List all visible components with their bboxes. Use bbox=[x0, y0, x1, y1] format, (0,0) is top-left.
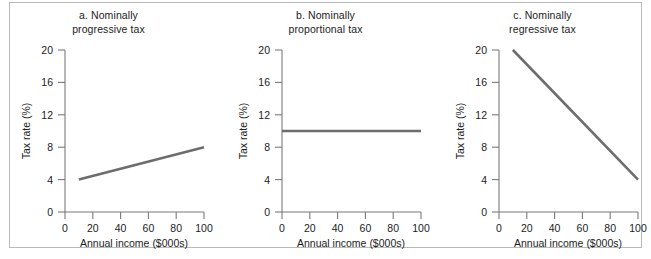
panel-b-xlabel-100: 100 bbox=[412, 222, 430, 234]
panel-a-xlabel-40: 40 bbox=[115, 222, 127, 234]
panel-b-ylabel-12: 12 bbox=[258, 109, 270, 121]
panel-b-xlabel-60: 60 bbox=[360, 222, 372, 234]
panel-c-y-axis-label: Tax rate (%) bbox=[454, 103, 466, 160]
panel-a-xlabel-20: 20 bbox=[87, 222, 99, 234]
chart-panel-b: b. Nominally proportional tax 0 4 8 12 1… bbox=[217, 0, 434, 259]
panel-c-x-axis-label: Annual income ($000s) bbox=[514, 237, 622, 249]
panel-c-xlabel-20: 20 bbox=[521, 222, 533, 234]
panel-b-xlabel-40: 40 bbox=[332, 222, 344, 234]
panel-a-ylabel-4: 4 bbox=[47, 174, 53, 186]
panel-c-ylabel-12: 12 bbox=[475, 109, 487, 121]
chart-panel-a: a. Nominally progressive tax 0 4 8 12 16… bbox=[0, 0, 217, 259]
panel-a-xlabel-60: 60 bbox=[143, 222, 155, 234]
panel-container: a. Nominally progressive tax 0 4 8 12 16… bbox=[0, 0, 651, 259]
panel-b-ylabel-20: 20 bbox=[258, 44, 270, 56]
panel-a-ylabel-8: 8 bbox=[47, 141, 53, 153]
panel-c-xlabel-40: 40 bbox=[549, 222, 561, 234]
panel-b-xlabel-0: 0 bbox=[279, 222, 285, 234]
panel-c-data-line bbox=[513, 50, 638, 180]
panel-a-ylabel-16: 16 bbox=[41, 76, 53, 88]
panel-b-y-axis-label: Tax rate (%) bbox=[237, 103, 249, 160]
panel-a-ylabel-12: 12 bbox=[41, 109, 53, 121]
panel-a-data-line bbox=[79, 147, 204, 179]
panel-b-ylabel-16: 16 bbox=[258, 76, 270, 88]
panel-c-ylabel-20: 20 bbox=[475, 44, 487, 56]
panel-c-ylabel-4: 4 bbox=[481, 174, 487, 186]
panel-a-xlabel-80: 80 bbox=[170, 222, 182, 234]
panel-c-ylabel-8: 8 bbox=[481, 141, 487, 153]
chart-panel-c: c. Nominally regressive tax 0 4 8 12 16 … bbox=[434, 0, 651, 259]
panel-c-ylabel-0: 0 bbox=[481, 206, 487, 218]
panel-b-ylabel-8: 8 bbox=[264, 141, 270, 153]
panel-b-ylabel-4: 4 bbox=[264, 174, 270, 186]
panel-a-ylabel-20: 20 bbox=[41, 44, 53, 56]
panel-c-xlabel-80: 80 bbox=[604, 222, 616, 234]
panel-a-plot: 0 4 8 12 16 20 0 20 40 60 80 100 Annual … bbox=[0, 0, 217, 259]
panel-b-ylabel-0: 0 bbox=[264, 206, 270, 218]
panel-c-ylabel-16: 16 bbox=[475, 76, 487, 88]
panel-a-ylabel-0: 0 bbox=[47, 206, 53, 218]
panel-a-x-axis-label: Annual income ($000s) bbox=[80, 237, 188, 249]
panel-c-xlabel-100: 100 bbox=[629, 222, 647, 234]
panel-b-xlabel-80: 80 bbox=[387, 222, 399, 234]
panel-c-plot: 0 4 8 12 16 20 0 20 40 60 80 100 Annual … bbox=[434, 0, 651, 259]
panel-a-xlabel-0: 0 bbox=[62, 222, 68, 234]
panel-b-x-axis-label: Annual income ($000s) bbox=[297, 237, 405, 249]
panel-a-xlabel-100: 100 bbox=[195, 222, 213, 234]
panel-c-xlabel-60: 60 bbox=[577, 222, 589, 234]
panel-b-xlabel-20: 20 bbox=[304, 222, 316, 234]
panel-a-y-axis-label: Tax rate (%) bbox=[20, 103, 32, 160]
panel-b-plot: 0 4 8 12 16 20 0 20 40 60 80 100 Annual … bbox=[217, 0, 434, 259]
panel-c-xlabel-0: 0 bbox=[496, 222, 502, 234]
